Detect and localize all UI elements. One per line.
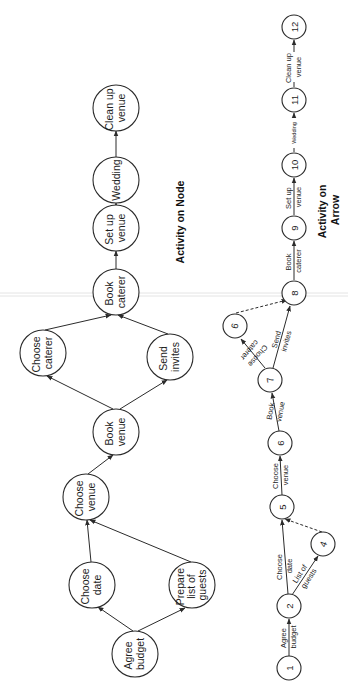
aon-node-choose-caterer: Choose caterer	[20, 330, 66, 376]
aoa-dummy-edge	[285, 519, 322, 532]
aon-node-send-invites: Send invites	[147, 334, 193, 380]
aon-edge	[88, 455, 113, 474]
svg-text:8: 8	[289, 290, 300, 295]
aon-edge	[98, 607, 133, 631]
aon-node-choose-venue: Choose venue	[63, 474, 109, 520]
svg-text:6: 6	[275, 440, 286, 445]
aoa-label-book-venue: Book venue	[264, 399, 286, 422]
aon-node-set-up-venue: Set up venue	[93, 205, 139, 251]
aon-edge	[120, 380, 167, 409]
aon-title: Activity on Node	[174, 180, 186, 263]
svg-text:9: 9	[289, 225, 300, 230]
aoa-label-agree-budget: Agree budget	[279, 625, 298, 649]
aon-node-book-caterer: Book caterer	[93, 269, 139, 315]
aon-node-choose-date: Choose date	[69, 562, 115, 608]
aoa-label-choose-venue: Choose venue	[271, 461, 290, 489]
aoa-node-10: 10	[282, 153, 306, 177]
aoa-node-5: 5	[270, 495, 294, 519]
svg-text:Agree budget: Agree budget	[122, 638, 146, 670]
activity-on-arrow-network: 1 2 4 5 6 7 9 8	[223, 15, 341, 680]
aoa-node-12: 12	[282, 15, 306, 39]
aoa-node-7: 7	[258, 368, 282, 392]
aon-edge	[118, 315, 168, 334]
activity-on-node-network: Agree budget Choose date Prepare list of…	[20, 85, 215, 677]
aoa-node-2: 2	[277, 594, 301, 618]
aon-edge	[90, 520, 191, 562]
aoa-label-book-caterer: Book caterer	[284, 249, 303, 273]
aon-edge	[47, 376, 113, 409]
aoa-title: Activity on Arrow	[316, 182, 341, 239]
aoa-label-wedding: Wedding	[291, 122, 297, 144]
svg-text:2: 2	[284, 603, 295, 608]
aon-node-wedding: Wedding	[93, 157, 139, 203]
aon-node-book-venue: Book venue	[93, 409, 139, 455]
svg-text:Choose venue: Choose venue	[73, 477, 97, 516]
aoa-node-9: 9	[282, 216, 306, 240]
svg-text:Book venue: Book venue	[103, 418, 127, 447]
aoa-node-8: 8	[282, 281, 306, 305]
aon-edge	[45, 315, 111, 330]
svg-text:1: 1	[284, 665, 295, 670]
aoa-label-send-invites: Send invites	[270, 327, 294, 353]
aoa-node-6: 6	[268, 431, 292, 455]
aon-edge	[138, 608, 185, 631]
aoa-dummy-edge	[236, 300, 287, 313]
svg-text:Choose caterer: Choose caterer	[30, 333, 54, 372]
aoa-node-9-dummy: 9	[223, 314, 247, 338]
svg-text:Send invites: Send invites	[157, 342, 181, 372]
aoa-label-choose-caterer: Choose caterer	[237, 337, 270, 371]
aoa-node-1: 1	[277, 656, 301, 680]
aoa-node-11: 11	[282, 88, 306, 112]
aoa-label-set-up-venue: Set up venue	[284, 185, 303, 209]
svg-text:Set up venue: Set up venue	[103, 211, 127, 244]
aon-node-clean-up-venue: Clean up venue	[93, 85, 139, 131]
aon-node-agree-budget: Agree budget	[112, 631, 158, 677]
aoa-node-4: 4	[311, 532, 335, 556]
svg-text:5: 5	[277, 504, 288, 509]
svg-text:11: 11	[289, 95, 300, 105]
aoa-label-list-of-guests: List of guests	[291, 561, 319, 590]
svg-text:Book caterer: Book caterer	[103, 275, 127, 308]
aon-node-prepare-list-of-guests: Prepare list of guests	[169, 562, 215, 608]
aon-edge	[87, 520, 91, 562]
svg-text:10: 10	[289, 160, 300, 171]
svg-text:12: 12	[289, 22, 300, 33]
critical-path-diagram: Agree budget Choose date Prepare list of…	[0, 0, 348, 690]
svg-text:Wedding: Wedding	[110, 159, 122, 200]
